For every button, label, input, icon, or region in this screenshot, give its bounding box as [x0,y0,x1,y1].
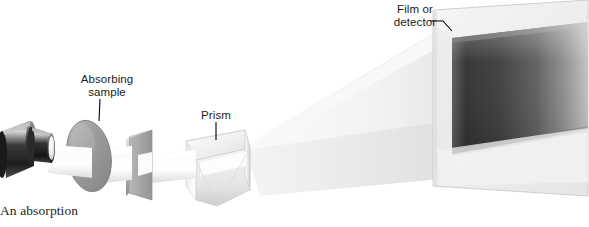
diagram-artwork [0,0,589,227]
label-absorbing-sample: Absorbing sample [64,73,150,99]
label-film-or-detector: Film or detector [374,3,456,29]
light-source [0,121,55,178]
label-prism: Prism [186,109,246,122]
figure-canvas: Absorbing sample Prism Film or detector … [0,0,589,227]
leader-line-absorbing-sample [99,99,100,121]
beam-slit-to-prism [152,150,196,183]
film-or-detector [433,0,588,196]
figure-caption: An absorption [0,203,150,218]
dispersed-beam [246,22,452,196]
